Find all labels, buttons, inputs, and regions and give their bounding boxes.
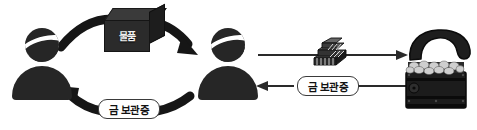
person-silhouette-right <box>198 28 258 100</box>
person-body-icon <box>198 66 258 100</box>
person-silhouette-left <box>12 28 72 100</box>
box-side-face <box>149 4 165 44</box>
treasure-chest-with-coins-icon <box>398 26 474 112</box>
gold-bars-stack-icon <box>306 38 350 68</box>
person-body-icon <box>12 66 72 100</box>
gold-certificate-label-right: 금 보관증 <box>308 79 349 94</box>
gold-certificate-pill-right: 금 보관증 <box>297 76 359 96</box>
gold-certificate-label-left: 금 보관증 <box>109 102 150 117</box>
person-head-icon <box>25 28 59 62</box>
gold-certificate-pill-left: 금 보관증 <box>98 99 160 119</box>
cert-return-flow-arrow <box>157 96 190 111</box>
person-head-icon <box>211 28 245 62</box>
diagram-canvas: 물품 금 보관증 <box>0 0 477 130</box>
cardboard-box-icon: 물품 <box>104 8 166 53</box>
goods-label: 물품 <box>104 28 150 43</box>
cert-issue-arrowhead <box>256 81 268 91</box>
